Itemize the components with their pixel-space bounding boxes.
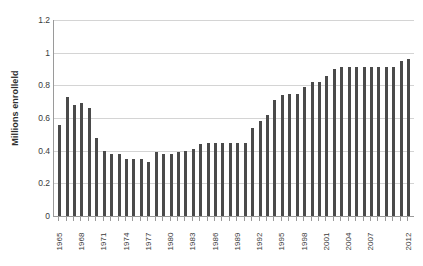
x-tick-mark (281, 217, 282, 221)
bar-slot (123, 20, 130, 216)
bar (333, 69, 336, 216)
bar (214, 143, 217, 217)
xlabel-slot: 1968 (77, 223, 84, 263)
bar-slot (130, 20, 137, 216)
bar-slot (331, 20, 338, 216)
y-axis-tick-labels: 00.20.40.60.811.2 (24, 14, 50, 222)
tick-slot (278, 217, 285, 222)
bar (132, 159, 135, 216)
bar-slot (160, 20, 167, 216)
bar-slot (86, 20, 93, 216)
bar-slot (338, 20, 345, 216)
tick-slot (114, 217, 121, 222)
tick-slot (404, 217, 411, 222)
bar (363, 67, 366, 216)
tick-slot (396, 217, 403, 222)
bar-slot (271, 20, 278, 216)
xlabel-slot: 1983 (189, 223, 196, 263)
tick-slot (293, 217, 300, 222)
xlabel-slot (307, 223, 314, 263)
bar (370, 67, 373, 216)
bar (236, 143, 239, 217)
tick-slot (233, 217, 240, 222)
bar-slot (175, 20, 182, 216)
x-tick-mark (363, 217, 364, 221)
x-tick-mark (311, 217, 312, 221)
bar (355, 67, 358, 216)
tick-slot (255, 217, 262, 222)
xlabel-slot (374, 223, 381, 263)
bar-slot (63, 20, 70, 216)
bar-slot (323, 20, 330, 216)
tick-slot (77, 217, 84, 222)
tick-slot (189, 217, 196, 222)
bar-slot (101, 20, 108, 216)
xlabel-slot (263, 223, 270, 263)
bar (311, 82, 314, 216)
bar-slot (93, 20, 100, 216)
xlabel-slot: 1998 (300, 223, 307, 263)
x-tick-mark (125, 217, 126, 221)
x-tick-mark (355, 217, 356, 221)
bar (340, 67, 343, 216)
bar-slot (145, 20, 152, 216)
x-tick-mark (199, 217, 200, 221)
x-tick-mark (221, 217, 222, 221)
xlabel-slot (330, 223, 337, 263)
bar (184, 151, 187, 216)
xlabel-slot (389, 223, 396, 263)
tick-slot (322, 217, 329, 222)
bar (80, 103, 83, 216)
x-tick-mark (155, 217, 156, 221)
x-tick-mark (259, 217, 260, 221)
y-tick-label: 0.8 (24, 81, 50, 90)
tick-slot (359, 217, 366, 222)
bar-slot (345, 20, 352, 216)
tick-slot (151, 217, 158, 222)
tick-slot (218, 217, 225, 222)
bar (88, 108, 91, 216)
bar-slot (308, 20, 315, 216)
bar (95, 138, 98, 216)
bar (110, 154, 113, 216)
xlabel-slot (241, 223, 248, 263)
tick-slot (107, 217, 114, 222)
bar (103, 151, 106, 216)
bar (385, 67, 388, 216)
bar (325, 76, 328, 216)
tick-slot (337, 217, 344, 222)
bar (170, 154, 173, 216)
x-tick-mark (325, 217, 326, 221)
x-tick-mark (266, 217, 267, 221)
tick-slot (248, 217, 255, 222)
bar-slot (234, 20, 241, 216)
x-tick-mark (214, 217, 215, 221)
xlabel-slot (218, 223, 225, 263)
bar-slot (78, 20, 85, 216)
bar-slot (360, 20, 367, 216)
tick-slot (374, 217, 381, 222)
tick-slot (100, 217, 107, 222)
tick-slot (122, 217, 129, 222)
bar-chart: Millions enrolleld 00.20.40.60.811.2 196… (0, 0, 423, 266)
bar (244, 143, 247, 217)
xlabel-slot: 2007 (367, 223, 374, 263)
bar-slot (405, 20, 412, 216)
bar-slot (397, 20, 404, 216)
xlabel-slot (151, 223, 158, 263)
xlabel-slot: 1965 (55, 223, 62, 263)
x-tick-mark (58, 217, 59, 221)
xlabel-slot: 1977 (144, 223, 151, 263)
bar (377, 67, 380, 216)
xlabel-slot: 1980 (166, 223, 173, 263)
bar-series (54, 20, 414, 216)
x-tick-mark (147, 217, 148, 221)
tick-slot (382, 217, 389, 222)
bar (303, 87, 306, 216)
tick-slot (307, 217, 314, 222)
bar-slot (108, 20, 115, 216)
x-tick-mark (170, 217, 171, 221)
plot-area (53, 20, 414, 217)
x-tick-mark (288, 217, 289, 221)
bar (155, 152, 158, 216)
